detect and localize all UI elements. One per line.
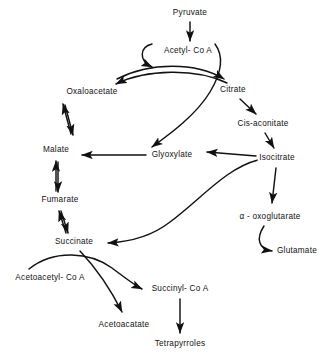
arrow-citrate-to-cis-aconitate [240, 99, 256, 114]
node-acetoacatate: Acetoacatate [97, 320, 151, 330]
node-glutamate: Glutamate [275, 246, 318, 256]
node-cis-aconitate: Cis-aconitate [236, 119, 290, 129]
arrow-malate-to-oxaloacetate [65, 105, 73, 135]
node-pyruvate: Pyruvate [171, 8, 208, 18]
node-isocitrate: Isocitrate [258, 153, 297, 163]
node-succinate: Succinate [53, 237, 94, 247]
arrow-acetyl-coa-to-glyoxylate [152, 44, 221, 147]
node-glyoxylate: Glyoxylate [150, 150, 194, 160]
arrow-isocitrate-to-glyoxylate [207, 152, 256, 156]
node-malate: Malate [41, 145, 70, 155]
arrow-isocitrate-to-succinate [108, 160, 258, 243]
arrow-acetyl-coa-hook-left [142, 44, 152, 67]
arrow-oxoglutarate-to-glutamate [259, 226, 272, 251]
node-tetrapyrroles: Tetrapyrroles [153, 339, 207, 349]
node-acetoacetyl-coa: Acetoacetyl- Co A [14, 273, 86, 283]
node-oxaloacetate: Oxaloacetate [65, 87, 119, 97]
arrow-succinate-to-acetoacatate [80, 251, 122, 312]
node-acetyl-coa: Acetyl- Co A [162, 46, 213, 56]
node-alpha-oxoglutarate: α - oxoglutarate [238, 212, 302, 222]
pathway-diagram: Pyruvate Acetyl- Co A Oxaloacetate Citra… [0, 0, 331, 357]
arrow-oxaloacetate-to-malate [63, 104, 71, 134]
arrow-citrate-to-oxaloacetate [116, 72, 227, 84]
node-succinyl-coa: Succinyl- Co A [150, 284, 210, 294]
arrow-cis-aconitate-to-isocitrate [265, 133, 274, 148]
arrow-acetoacetyl-coa-to-succinyl-coa [29, 255, 142, 289]
arrow-isocitrate-to-oxoglutarate [272, 168, 276, 203]
node-citrate: Citrate [219, 85, 248, 95]
node-fumarate: Fumarate [40, 195, 80, 205]
